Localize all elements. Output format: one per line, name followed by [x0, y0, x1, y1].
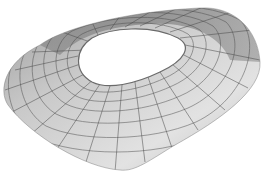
roof-surface [0, 0, 266, 176]
wireframe-shell [0, 0, 266, 176]
stadium-roof-render: 3D wireframe rendering of an oval stadiu… [0, 0, 266, 176]
